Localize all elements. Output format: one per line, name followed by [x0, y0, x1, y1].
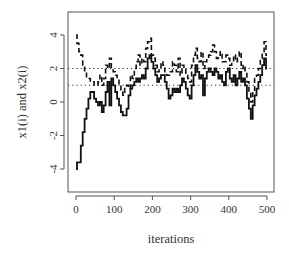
x-tick-label: 300: [182, 203, 199, 215]
y-tick-label: 2: [47, 66, 59, 72]
x-tick-label: 500: [259, 203, 276, 215]
y-tick-label: 0: [47, 99, 59, 105]
x-tick-label: 200: [144, 203, 161, 215]
x-tick-label: 100: [106, 203, 123, 215]
x-tick-label: 400: [221, 203, 238, 215]
x-axis: 0100200300400500: [73, 196, 276, 215]
series-lines: [76, 35, 267, 169]
trace-plot: 0100200300400500 -4-2024 iterations x1(i…: [0, 0, 289, 254]
x-tick-label: 0: [73, 203, 79, 215]
y-axis: -4-2024: [47, 32, 64, 174]
y-tick-label: 4: [47, 32, 59, 38]
y-tick-label: -4: [47, 164, 59, 174]
x-axis-label: iterations: [148, 232, 195, 246]
y-tick-label: -2: [47, 131, 59, 140]
series-x2-line: [76, 35, 267, 102]
y-axis-label: x1(i) and x2(i): [15, 66, 29, 139]
